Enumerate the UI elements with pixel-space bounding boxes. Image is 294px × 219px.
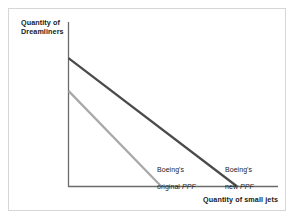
x-axis-title: Quantity of small jets <box>181 196 278 205</box>
ppf-original-label-line2-prefix: original <box>157 183 182 190</box>
ppf-original-line <box>69 91 161 186</box>
ppf-new-label-line2-prefix: new <box>225 183 240 190</box>
economics-ppf-figure: Quantity of Dreamliners Quantity of smal… <box>0 0 294 219</box>
ppf-new-label-line2-italic: PPF <box>240 183 254 190</box>
ppf-new-label-line1: Boeing's <box>225 166 252 173</box>
ppf-new-label: Boeing's new PPF <box>225 158 254 192</box>
ppf-new-line <box>69 58 237 186</box>
y-axis-title: Quantity of Dreamliners <box>21 19 64 36</box>
ppf-original-label-line1: Boeing's <box>157 166 184 173</box>
ppf-original-label-line2-italic: PPF <box>182 183 196 190</box>
ppf-original-label: Boeing's original PPF <box>157 158 196 192</box>
